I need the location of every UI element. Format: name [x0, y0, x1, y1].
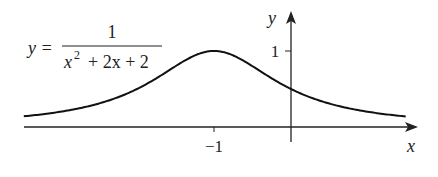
- equation-denominator-x: x: [63, 52, 72, 72]
- y-axis-label: y: [266, 8, 276, 28]
- x-axis-label: x: [406, 136, 415, 156]
- y-tick-label: 1: [271, 42, 280, 61]
- equation-exponent: 2: [74, 48, 80, 62]
- equation-numerator: 1: [108, 22, 117, 42]
- svg-text:y =: y =: [26, 38, 53, 58]
- equation-denominator-rest: + 2x + 2: [88, 52, 149, 72]
- function-curve: [24, 51, 406, 116]
- equation-label: y = 1 x 2 + 2x + 2: [26, 22, 162, 72]
- x-tick-label: −1: [205, 137, 223, 156]
- equation-lhs: y =: [26, 38, 53, 58]
- function-graph: −1 1 x y y = 1 x 2 + 2x + 2: [0, 0, 438, 177]
